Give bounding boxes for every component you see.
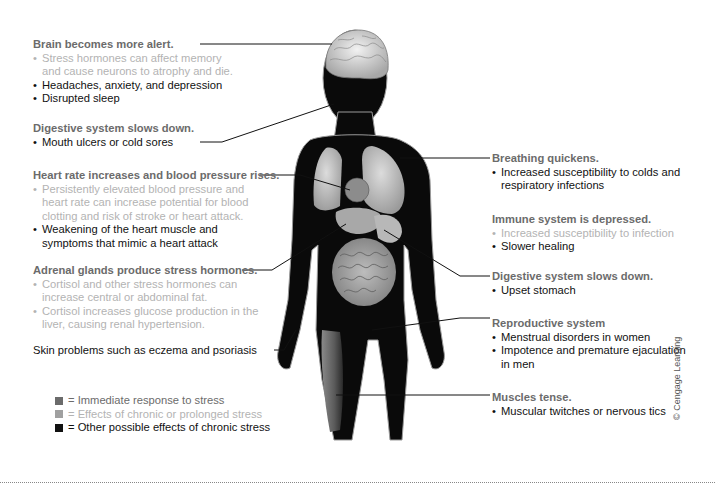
label-heading: Adrenal glands produce stress hormones.	[33, 264, 258, 278]
legend-swatch-immediate	[55, 397, 63, 405]
legend-swatch-other	[55, 424, 63, 432]
label-digestive-mouth: Digestive system slows down. •Mouth ulce…	[33, 122, 194, 149]
thigh-muscle	[321, 330, 343, 432]
bullet-other: •Mouth ulcers or cold sores	[33, 136, 194, 150]
bullet-chronic: •Persistently elevated blood pressure an…	[33, 183, 279, 224]
label-brain: Brain becomes more alert. •Stress hormon…	[33, 38, 233, 106]
bullet-other: •Headaches, anxiety, and depression	[33, 79, 233, 93]
legend-item-chronic: = Effects of chronic or prolonged stress	[55, 408, 270, 422]
bullet-chronic: •Cortisol and other stress hormones cani…	[33, 278, 258, 305]
silhouette	[278, 30, 445, 440]
intestines	[332, 238, 396, 306]
label-heading: Heart rate increases and blood pressure …	[33, 169, 279, 183]
label-heading: Brain becomes more alert.	[33, 38, 233, 52]
legend-item-other: = Other possible effects of chronic stre…	[55, 421, 270, 435]
copyright: © Cengage Learning	[672, 337, 682, 420]
label-digestive-stomach: Digestive system slows down. •Upset stom…	[492, 270, 653, 297]
bullet-other: •Muscular twitches or nervous tics	[492, 405, 666, 419]
brain	[326, 30, 388, 79]
label-heading: Digestive system slows down.	[492, 270, 653, 284]
bullet-other: •Weakening of the heart muscle andsympto…	[33, 223, 279, 250]
label-heading: Reproductive system	[492, 317, 686, 331]
bullet-chronic: •Stress hormones can affect memoryand ca…	[33, 52, 233, 79]
label-muscles: Muscles tense. •Muscular twitches or ner…	[492, 391, 666, 418]
bullet-other: •Impotence and premature ejaculationin m…	[492, 344, 686, 371]
bullet-chronic: •Increased susceptibility to infection	[492, 227, 674, 241]
label-heading: Breathing quickens.	[492, 152, 680, 166]
label-breathing: Breathing quickens. •Increased susceptib…	[492, 152, 680, 193]
legend: = Immediate response to stress = Effects…	[55, 394, 270, 435]
bullet-other: •Slower healing	[492, 240, 674, 254]
label-heading: Immune system is depressed.	[492, 213, 674, 227]
label-reproductive: Reproductive system •Menstrual disorders…	[492, 317, 686, 371]
bullet-other: •Menstrual disorders in women	[492, 331, 686, 345]
bullet-other: •Upset stomach	[492, 284, 653, 298]
label-immune: Immune system is depressed. •Increased s…	[492, 213, 674, 254]
label-heart: Heart rate increases and blood pressure …	[33, 169, 279, 251]
bullet-other: •Disrupted sleep	[33, 92, 233, 106]
bullet-other: •Increased susceptibility to colds andre…	[492, 166, 680, 193]
bullet-chronic: •Cortisol increases glucose production i…	[33, 305, 258, 332]
label-adrenal: Adrenal glands produce stress hormones. …	[33, 264, 258, 332]
label-heading: Muscles tense.	[492, 391, 666, 405]
legend-item-immediate: = Immediate response to stress	[55, 394, 270, 408]
label-heading: Digestive system slows down.	[33, 122, 194, 136]
legend-swatch-chronic	[55, 410, 63, 418]
dotted-divider	[0, 482, 715, 483]
label-skin: Skin problems such as eczema and psorias…	[33, 344, 257, 358]
